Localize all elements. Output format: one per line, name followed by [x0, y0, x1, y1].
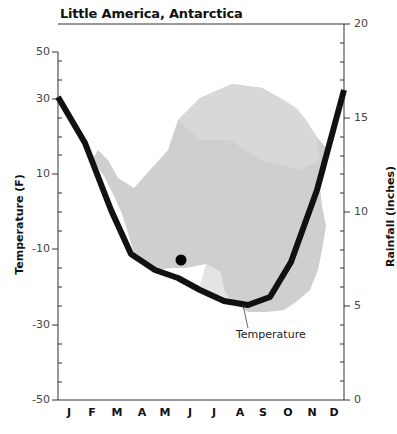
right-tick-label: 0	[354, 393, 384, 406]
antarctica-map	[92, 84, 328, 312]
month-label: D	[324, 406, 344, 419]
right-tick-label: 5	[354, 299, 384, 312]
month-label: M	[107, 406, 127, 419]
location-marker	[176, 255, 187, 266]
month-label: N	[302, 406, 322, 419]
right-axis-title: Rainfall (inches)	[384, 157, 397, 277]
month-label: O	[278, 406, 298, 419]
month-label: J	[204, 406, 224, 419]
month-label: J	[180, 406, 200, 419]
month-label: S	[253, 406, 273, 419]
right-tick-label: 10	[354, 205, 384, 218]
left-tick-label: -30	[20, 318, 50, 331]
month-label: A	[230, 406, 250, 419]
right-axis	[340, 24, 350, 400]
month-label: J	[59, 406, 79, 419]
left-axis-title: Temperature (F)	[13, 170, 26, 280]
left-tick-label: 50	[20, 45, 50, 58]
month-label: F	[82, 406, 102, 419]
temperature-callout: Temperature	[236, 328, 306, 341]
month-label: A	[132, 406, 152, 419]
right-tick-label: 20	[354, 17, 384, 30]
left-tick-label: 30	[20, 92, 50, 105]
left-tick-label: -50	[20, 393, 50, 406]
right-tick-label: 15	[354, 111, 384, 124]
month-label: M	[155, 406, 175, 419]
